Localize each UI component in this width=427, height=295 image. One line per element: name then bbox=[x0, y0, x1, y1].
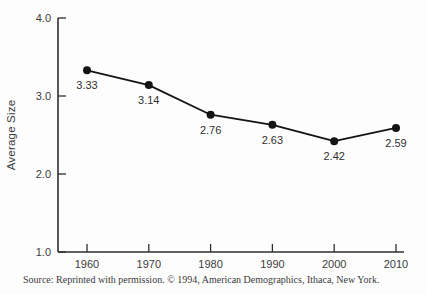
data-point-label: 2.59 bbox=[385, 137, 406, 149]
x-tick-label: 2010 bbox=[384, 258, 408, 270]
y-axis-title: Average Size bbox=[5, 100, 17, 171]
x-tick-label: 2000 bbox=[322, 258, 346, 270]
data-point bbox=[330, 137, 338, 145]
figure: 4.03.02.01.01960197019801990200020103.33… bbox=[0, 0, 427, 295]
data-point bbox=[268, 121, 276, 129]
data-point-label: 2.42 bbox=[323, 150, 344, 162]
y-tick-label: 2.0 bbox=[36, 168, 51, 180]
x-tick-label: 1980 bbox=[198, 258, 222, 270]
y-tick-label: 3.0 bbox=[36, 90, 51, 102]
data-point bbox=[83, 66, 91, 74]
line-chart: 4.03.02.01.01960197019801990200020103.33… bbox=[0, 0, 427, 272]
series-line bbox=[87, 70, 396, 141]
data-point bbox=[207, 111, 215, 119]
data-point bbox=[145, 81, 153, 89]
y-tick-label: 4.0 bbox=[36, 12, 51, 24]
y-tick-label: 1.0 bbox=[36, 246, 51, 258]
x-tick-label: 1970 bbox=[137, 258, 161, 270]
data-point bbox=[392, 124, 400, 132]
data-point-label: 2.63 bbox=[262, 134, 283, 146]
x-tick-label: 1990 bbox=[260, 258, 284, 270]
x-tick-label: 1960 bbox=[75, 258, 99, 270]
data-point-label: 3.33 bbox=[76, 79, 97, 91]
data-point-label: 2.76 bbox=[200, 124, 221, 136]
source-note: Source: Reprinted with permission. © 199… bbox=[23, 274, 379, 285]
data-point-label: 3.14 bbox=[138, 94, 159, 106]
